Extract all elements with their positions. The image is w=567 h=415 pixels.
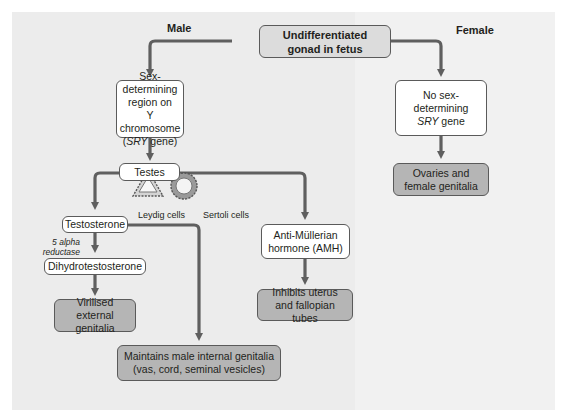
node-testosterone: Testosterone	[62, 216, 128, 233]
flow-arrows	[0, 0, 567, 415]
arrow-testosterone-to-maintains	[128, 225, 199, 337]
leydig-cells-label: Leydig cells	[138, 210, 185, 220]
enzyme-label: 5 alpha reductase	[38, 237, 80, 257]
male-heading: Male	[167, 22, 191, 34]
node-sry-region: Sex-determining region on Y chromosome (…	[116, 80, 184, 138]
female-heading: Female	[456, 24, 494, 36]
node-undifferentiated-gonad: Undifferentiated gonad in fetus	[259, 25, 391, 58]
node-amh: Anti-Müllerian hormone (AMH)	[261, 224, 350, 259]
node-testes: Testes	[119, 163, 180, 181]
arrow-root-to-no-sry	[388, 41, 441, 73]
arrow-root-to-sry	[150, 41, 232, 73]
node-virilised-external-genitalia: Virilised external genitalia	[54, 299, 136, 332]
node-maintains-internal-genitalia: Maintains male internal genitalia (vas, …	[117, 345, 281, 381]
node-dihydrotestosterone: Dihydrotestosterone	[44, 258, 146, 275]
sertoli-cells-label: Sertoli cells	[203, 210, 249, 220]
node-no-sry: No sex- determining SRY gene	[395, 80, 487, 136]
node-inhibits-uterus: Inhibits uterus and fallopian tubes	[257, 289, 353, 321]
node-ovaries: Ovaries and female genitalia	[393, 163, 489, 196]
